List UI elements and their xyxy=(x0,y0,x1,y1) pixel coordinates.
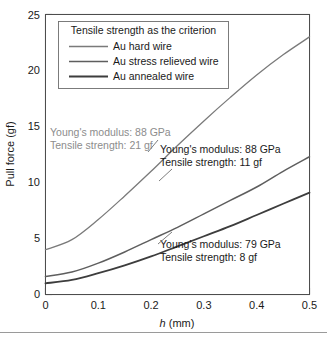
annotation-stress-relieved-line2: Tensile strength: 11 gf xyxy=(160,156,262,168)
y-axis-tick-labels: 0 5 10 15 20 25 xyxy=(28,9,40,300)
legend-label-au-hard-wire: Au hard wire xyxy=(113,40,172,52)
x-tick-label-0p2: 0.2 xyxy=(143,299,158,311)
x-tick-label-0: 0 xyxy=(42,299,48,311)
legend-label-au-stress-relieved-wire: Au stress relieved wire xyxy=(113,55,219,67)
legend-title: Tensile strength as the criterion xyxy=(71,24,216,36)
x-axis-title-unit: (mm) xyxy=(166,317,195,329)
annotation-hard-wire-line2: Tensile strength: 21 gf xyxy=(50,139,153,151)
y-tick-label-25: 25 xyxy=(28,9,40,21)
annotation-annealed-line1: Young's modulus: 79 GPa xyxy=(160,238,281,250)
y-tick-label-5: 5 xyxy=(34,232,40,244)
annotation-annealed-line2: Tensile strength: 8 gf xyxy=(160,251,257,263)
x-tick-label-0p1: 0.1 xyxy=(91,299,106,311)
annotation-au-hard-wire: Young's modulus: 88 GPa Tensile strength… xyxy=(50,126,171,151)
x-axis-title: h (mm) xyxy=(160,317,195,329)
y-tick-label-10: 10 xyxy=(28,176,40,188)
y-tick-label-0: 0 xyxy=(34,288,40,300)
annotation-hard-wire-line1: Young's modulus: 88 GPa xyxy=(50,126,171,138)
x-axis-tick-labels: 0 0.1 0.2 0.3 0.4 0.5 xyxy=(42,299,317,311)
y-tick-label-15: 15 xyxy=(28,120,40,132)
pull-force-chart: 0 5 10 15 20 25 Pull force (gf) 0 0.1 0.… xyxy=(0,0,327,341)
x-tick-label-0p3: 0.3 xyxy=(196,299,211,311)
legend-label-au-annealed-wire: Au annealed wire xyxy=(113,70,194,82)
x-tick-label-0p5: 0.5 xyxy=(302,299,317,311)
annotation-stress-relieved-line1: Young's modulus: 88 GPa xyxy=(160,143,281,155)
y-axis-title: Pull force (gf) xyxy=(4,121,16,186)
y-tick-label-20: 20 xyxy=(28,64,40,76)
x-tick-label-0p4: 0.4 xyxy=(249,299,264,311)
legend: Tensile strength as the criterion Au har… xyxy=(59,22,229,89)
figure-container: 0 5 10 15 20 25 Pull force (gf) 0 0.1 0.… xyxy=(0,0,327,341)
